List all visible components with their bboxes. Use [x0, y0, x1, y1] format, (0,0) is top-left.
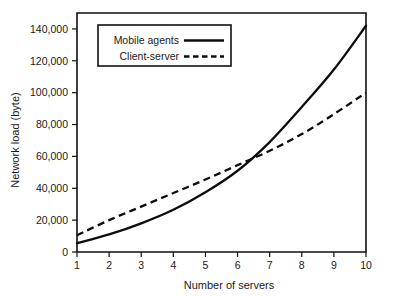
x-axis-tick-label: 3 [138, 259, 144, 271]
x-axis-tick-label: 10 [360, 259, 372, 271]
y-axis-tick-label: 100,000 [30, 86, 68, 98]
x-axis-tick-label: 6 [235, 259, 241, 271]
y-axis-tick-label: 0 [62, 246, 68, 258]
y-axis-tick-label: 80,000 [36, 118, 68, 130]
x-axis-tick-label: 5 [203, 259, 209, 271]
y-axis-tick-label: 40,000 [36, 182, 68, 194]
x-axis-tick-label: 2 [106, 259, 112, 271]
legend-label-mobile-agents: Mobile agents [114, 34, 179, 46]
network-load-line-chart: 020,00040,00060,00080,000100,000120,0001… [0, 0, 393, 296]
legend-label-client-server: Client-server [119, 50, 179, 62]
x-axis-tick-label: 4 [170, 259, 176, 271]
x-axis-tick-label: 1 [74, 259, 80, 271]
y-axis-tick-label: 60,000 [36, 150, 68, 162]
x-axis-title: Number of servers [184, 279, 275, 291]
y-axis-tick-label: 20,000 [36, 214, 68, 226]
x-axis-tick-label: 7 [267, 259, 273, 271]
x-axis-tick-label: 9 [331, 259, 337, 271]
chart-figure: 020,00040,00060,00080,000100,000120,0001… [0, 0, 393, 296]
y-axis-tick-label: 140,000 [30, 23, 68, 35]
x-axis-tick-label: 8 [299, 259, 305, 271]
chart-legend: Mobile agents Client-server [98, 25, 231, 66]
y-axis-tick-label: 120,000 [30, 55, 68, 67]
y-axis-title: Network load (byte) [9, 92, 21, 187]
